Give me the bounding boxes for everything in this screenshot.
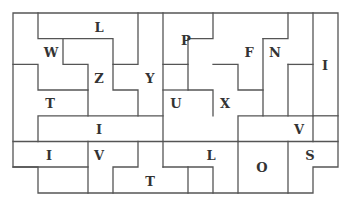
piece-label-l: L: [206, 149, 215, 162]
piece-label-v: V: [294, 123, 304, 136]
piece-label-y: Y: [145, 72, 154, 85]
piece-label-z: Z: [94, 72, 104, 85]
piece-label-x: X: [220, 97, 230, 110]
piece-label-w: W: [44, 46, 59, 59]
piece-label-i: I: [96, 123, 102, 136]
piece-label-t: T: [145, 175, 155, 188]
piece-label-o: O: [256, 161, 267, 174]
piece-label-i: I: [322, 59, 328, 72]
piece-label-s: S: [305, 149, 314, 162]
piece-label-n: N: [269, 46, 281, 59]
piece-label-v: V: [94, 149, 104, 162]
piece-label-u: U: [170, 97, 181, 110]
piece-label-t: T: [45, 97, 55, 110]
piece-label-p: P: [181, 34, 191, 47]
piece-label-l: L: [94, 21, 103, 34]
piece-label-i: I: [46, 149, 52, 162]
piece-label-f: F: [244, 46, 253, 59]
